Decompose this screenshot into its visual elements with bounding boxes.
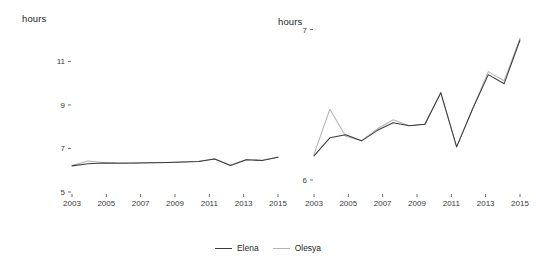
legend-label-olesya: Olesya [295,243,321,253]
legend-swatch-elena [215,248,232,249]
x-tick-label: 2007 [132,199,150,208]
figure: hours 579112003200520072009201120132015 … [0,0,536,264]
x-tick-label: 2009 [166,199,184,208]
x-tick-label: 2013 [235,199,253,208]
y-tick-label: 7 [61,144,66,153]
x-tick-label: 2009 [408,199,426,208]
x-tick-label: 2011 [201,199,219,208]
y-tick-label: 5 [61,188,66,197]
x-tick-label: 2007 [374,199,392,208]
series-line-elena [314,40,520,156]
x-tick-label: 2011 [443,199,461,208]
y-tick-label: 6 [303,176,308,185]
series-line-olesya [72,157,278,165]
series-line-elena [72,157,278,166]
y-tick-label: 11 [57,57,66,66]
chart-panel-left: hours 579112003200520072009201120132015 [0,0,290,230]
legend-swatch-olesya [273,248,290,249]
y-tick-label: 9 [61,101,66,110]
line-chart-left: 579112003200520072009201120132015 [0,0,290,230]
legend-item-elena[interactable]: Elena [215,243,259,253]
y-tick-label: 7 [303,26,308,35]
line-chart-right: 762003200520072009201120132015 [268,0,536,230]
x-tick-label: 2003 [305,199,323,208]
x-tick-label: 2005 [339,199,357,208]
x-tick-label: 2013 [477,199,495,208]
x-tick-label: 2003 [63,199,81,208]
chart-panel-right: hours 762003200520072009201120132015 [268,0,536,230]
legend-label-elena: Elena [237,243,259,253]
x-tick-label: 2015 [511,199,529,208]
chart-legend: Elena Olesya [0,238,536,258]
x-tick-label: 2005 [97,199,115,208]
series-line-olesya [314,39,520,155]
legend-item-olesya[interactable]: Olesya [273,243,321,253]
